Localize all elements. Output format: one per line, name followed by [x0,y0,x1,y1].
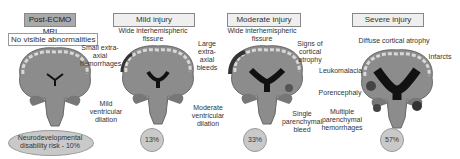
subtitle-mild: Wide interhemispheric fissure [110,27,196,43]
panel-title-mild: Mild injury [113,13,195,27]
label-large-extra-axial: Large extra-axial bleeds [192,40,222,72]
percent-severe: 57% [380,128,404,152]
percent-moderate: 33% [243,128,267,152]
subtitle-severe: Diffuse cortical atrophy [354,37,434,45]
label-porencephaly: Porencephaly [318,89,362,97]
label-leukomalacia: Leukomalacia [319,67,359,75]
label-infarcts: Infarcts [422,53,458,61]
subtitle-moderate: Wide interhemispheric fissure [222,27,302,43]
panel-title-severe: Severe injury [352,13,424,27]
label-moderate-ventricular: Moderate ventricular dilation [186,104,230,128]
label-small-extra-axial: Small extra-axial hemorrhages [80,44,120,68]
panel-title-post-ecmo: Post-ECMO MRI [24,13,76,27]
label-single-parenchymal: Single parenchymal bleed [280,110,324,134]
percent-mild: 13% [140,128,164,152]
risk-label: Neurodevelopmental disability risk - 10% [14,134,86,150]
panel-title-moderate: Moderate injury [227,13,301,27]
label-multiple-parenchymal: Multiple parenchymal hemorrhages [320,108,364,132]
label-cortical-atrophy: Signs of cortical atrophy [292,40,328,64]
